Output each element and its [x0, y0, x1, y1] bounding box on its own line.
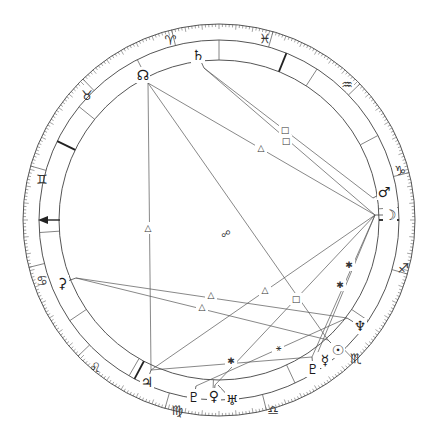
degree-tick [26, 253, 31, 254]
aspect-lines [76, 68, 375, 386]
uranus-icon: ♅︎ [226, 392, 239, 408]
degree-tick [93, 70, 96, 74]
sign-boundary [31, 166, 46, 170]
degree-tick [30, 269, 35, 270]
degree-tick [49, 122, 53, 125]
house-inner-ring [59, 60, 379, 380]
degree-tick [185, 27, 186, 32]
degree-tick [41, 137, 46, 139]
cancer-icon: ♋︎ [36, 273, 48, 288]
degree-tick [315, 50, 318, 54]
libra-icon: ♎︎ [267, 403, 279, 418]
degree-tick [398, 153, 403, 155]
moon-icon: ☽︎ [384, 207, 397, 223]
degree-tick [342, 366, 345, 370]
degree-tick [26, 186, 31, 187]
degree-tick [107, 376, 110, 380]
sextile-icon: ✱ [336, 280, 344, 290]
sextile-icon: ✱ [345, 260, 353, 270]
degree-tick [168, 404, 169, 409]
degree-tick [107, 59, 110, 63]
venus-icon: ♀︎ [209, 388, 219, 404]
degree-tick [58, 108, 62, 111]
degree-tick [384, 316, 388, 319]
pisces-icon: ♓︎ [259, 31, 271, 46]
degree-tick [30, 169, 35, 170]
mercury-icon: ☿︎ [321, 352, 330, 368]
north-node-icon: ☊︎ [137, 67, 149, 83]
degree-tick [329, 376, 332, 380]
degree-tick [58, 330, 62, 333]
zodiac-signs: ♈︎♓︎♒︎♑︎♐︎♏︎♎︎♍︎♌︎♋︎♊︎♉︎ [36, 31, 409, 418]
house-cusp [70, 309, 87, 320]
ceres-icon: ⚳︎ [57, 275, 67, 291]
house-cusps [39, 40, 399, 400]
degree-tick [392, 137, 397, 139]
house-cusp [79, 107, 95, 120]
gemini-icon: ♊︎ [36, 172, 48, 187]
trine-icon: △ [262, 285, 269, 295]
degree-tick [407, 186, 412, 187]
ascendant-marker [38, 216, 60, 224]
scorpio-icon: ♏︎ [350, 351, 362, 366]
degree-tick [365, 94, 369, 97]
degree-tick [35, 153, 40, 155]
pluto-icon: ♇︎ [188, 389, 201, 405]
degree-tick [69, 94, 73, 97]
aquarius-icon: ♒︎ [341, 77, 353, 92]
trine-icon: △ [145, 223, 152, 233]
sun-icon: ☉︎ [332, 342, 345, 358]
square-icon: □ [292, 294, 301, 304]
leo-icon: ♌︎ [89, 360, 101, 375]
saturn-icon: ♄︎ [192, 47, 205, 63]
astro-chart-wheel: △☍△□□△△△□✱✱✱⚹ ♈︎♓︎♒︎♑︎♐︎♏︎♎︎♍︎♌︎♋︎♊︎♉︎ ☊… [0, 0, 438, 440]
degree-tick [284, 36, 286, 41]
degree-tick [284, 399, 286, 404]
pluto-alt-icon: ♇︎ [307, 361, 320, 377]
sign-boundary [29, 264, 45, 268]
trine-icon: △ [258, 143, 265, 153]
square-icon: □ [282, 136, 291, 146]
degree-tick [121, 50, 124, 54]
square-icon: □ [281, 125, 290, 135]
degree-tick [152, 36, 154, 41]
angle-cusp [57, 141, 75, 150]
degree-tick [300, 393, 302, 398]
mars-icon: ♂︎ [378, 184, 391, 200]
degree-tick [69, 343, 73, 346]
degree-tick [375, 330, 379, 333]
degree-tick [342, 70, 345, 74]
aries-icon: ♈︎ [164, 33, 176, 48]
degree-tick [252, 27, 253, 32]
degree-tick [398, 285, 403, 287]
sextile-icon: ✱ [227, 356, 235, 366]
degree-tick [315, 385, 318, 389]
sign-boundary [263, 395, 267, 411]
degree-tick [152, 399, 154, 404]
virgo-icon: ♍︎ [171, 403, 183, 418]
taurus-icon: ♉︎ [81, 88, 93, 103]
neptune-icon: ♆︎ [354, 318, 367, 334]
degree-tick [80, 355, 84, 359]
degree-tick [136, 393, 138, 398]
degree-tick [80, 81, 84, 85]
house-cusp [39, 231, 59, 232]
degree-tick [185, 408, 186, 413]
degree-tick [41, 301, 46, 303]
capricorn-icon: ♑︎ [394, 163, 406, 178]
degree-tick [136, 42, 138, 47]
sign-boundary [165, 393, 169, 408]
trine-icon: △ [208, 290, 215, 300]
sign-boundary [78, 345, 90, 356]
house-cusp [360, 135, 378, 144]
degree-tick [384, 122, 388, 125]
degree-tick [300, 42, 302, 47]
degree-tick [121, 385, 124, 389]
degree-tick [252, 408, 253, 413]
degree-tick [354, 81, 358, 85]
degree-tick [365, 343, 369, 346]
degree-tick [375, 108, 379, 111]
jupiter-icon: ♃︎ [141, 374, 154, 390]
trine-icon: △ [199, 302, 206, 312]
degree-tick [49, 316, 53, 319]
